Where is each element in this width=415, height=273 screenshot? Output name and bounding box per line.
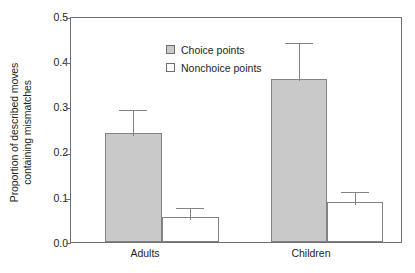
legend-item-nonchoice-points: Nonchoice points (166, 60, 262, 75)
bar-children-nonchoice-points (327, 202, 383, 242)
plot-area: Choice points Nonchoice points (70, 17, 402, 243)
legend-item-choice-points: Choice points (166, 42, 262, 57)
y-tick-mark (66, 18, 71, 19)
y-tick-label: 0.2 (34, 147, 68, 158)
error-bar-adults-choice-points (119, 110, 147, 136)
legend-label: Nonchoice points (181, 62, 262, 74)
y-tick-mark (66, 243, 71, 244)
error-bar-adults-nonchoice-points (176, 208, 204, 220)
legend-label: Choice points (181, 44, 245, 56)
error-bar-children-choice-points (285, 43, 313, 81)
bar-adults-choice-points (105, 133, 162, 242)
error-bar-stem (133, 110, 134, 136)
error-bar-stem (299, 43, 300, 81)
bar-adults-nonchoice-points (162, 217, 219, 242)
error-bar-stem (355, 192, 356, 205)
hollow-square-icon (166, 63, 175, 72)
y-tick-mark (66, 63, 71, 64)
y-axis-label-line-1: Proportion of described moves (8, 18, 21, 248)
y-tick-mark (66, 108, 71, 109)
y-tick-label: 0.3 (34, 102, 68, 113)
x-tick-label-adults: Adults (100, 247, 190, 259)
y-tick-mark (66, 154, 71, 155)
legend: Choice points Nonchoice points (166, 42, 262, 78)
x-tick-label-children: Children (266, 247, 356, 259)
y-tick-mark (66, 199, 71, 200)
error-bar-children-nonchoice-points (341, 192, 369, 205)
filled-square-icon (166, 45, 175, 54)
y-tick-label: 0.5 (34, 12, 68, 23)
y-tick-label: 0.4 (34, 57, 68, 68)
y-axis-tick-labels: 0.5 0.4 0.3 0.2 0.1 0.0 (34, 0, 68, 273)
bar-children-choice-points (271, 79, 327, 242)
y-tick-label: 0.1 (34, 193, 68, 204)
y-tick-label: 0.0 (34, 238, 68, 249)
error-bar-stem (190, 208, 191, 220)
y-axis-label-line-2: containing mismatches (20, 18, 33, 248)
chart-figure: Proportion of described moves containing… (0, 0, 415, 273)
